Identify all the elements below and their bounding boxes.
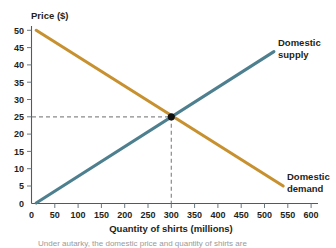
x-tick-300: 300	[164, 210, 179, 220]
y-tick-50: 50	[14, 26, 24, 36]
y-tick-45: 45	[14, 43, 24, 53]
x-tick-550: 550	[280, 210, 295, 220]
x-tick-200: 200	[117, 210, 132, 220]
y-tick-25: 25	[14, 112, 24, 122]
x-tick-500: 500	[257, 210, 272, 220]
x-tick-450: 450	[234, 210, 249, 220]
y-tick-40: 40	[14, 60, 24, 70]
y-tick-5: 5	[19, 181, 24, 191]
x-tick-50: 50	[50, 210, 60, 220]
x-tick-400: 400	[210, 210, 225, 220]
x-tick-100: 100	[71, 210, 86, 220]
x-tick-350: 350	[187, 210, 202, 220]
y-axis-title: Price ($)	[31, 10, 69, 21]
x-tick-0: 0	[29, 210, 34, 220]
y-tick-30: 30	[14, 95, 24, 105]
y-tick-0: 0	[19, 199, 24, 209]
demand-label-line1: Domestic	[287, 171, 330, 182]
supply-demand-chart: Price ($) 50 45 40 35 30 25 20 15	[0, 0, 336, 248]
x-tick-150: 150	[94, 210, 109, 220]
domestic-demand-label: Domestic demand	[287, 171, 330, 194]
x-axis-title: Quantity of shirts (millions)	[109, 223, 233, 234]
y-tick-20: 20	[14, 129, 24, 139]
y-tick-35: 35	[14, 78, 24, 88]
y-tick-15: 15	[14, 147, 24, 157]
x-tick-250: 250	[140, 210, 155, 220]
equilibrium-point-dot	[168, 113, 175, 120]
figure-caption: Under autarky, the domestic price and qu…	[38, 239, 247, 248]
y-tick-10: 10	[14, 164, 24, 174]
demand-label-line2: demand	[287, 183, 324, 194]
supply-label-line2: supply	[278, 49, 309, 60]
supply-label-line1: Domestic	[278, 37, 321, 48]
chart-screenshot: Price ($) 50 45 40 35 30 25 20 15	[0, 0, 336, 248]
x-tick-600: 600	[304, 210, 319, 220]
